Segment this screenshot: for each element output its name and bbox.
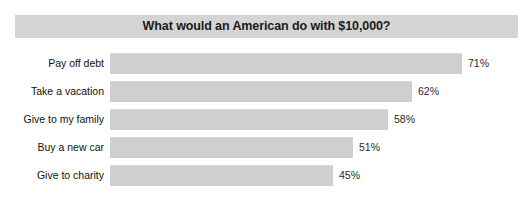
bar-row: Pay off debt 71% xyxy=(0,53,531,74)
category-label: Give to my family xyxy=(23,109,104,130)
category-label: Buy a new car xyxy=(37,137,104,158)
bar-fill xyxy=(110,137,353,158)
bar-fill xyxy=(110,53,462,74)
bar-fill xyxy=(110,109,388,130)
bar-track xyxy=(110,137,353,158)
bar-track xyxy=(110,165,333,186)
value-label: 71% xyxy=(468,53,489,74)
chart-title: What would an American do with $10,000? xyxy=(143,20,391,33)
bar-track xyxy=(110,109,388,130)
bar-row: Give to my family 58% xyxy=(0,109,531,130)
value-label: 45% xyxy=(339,165,360,186)
value-label: 58% xyxy=(394,109,415,130)
plot-area: Pay off debt 71% Take a vacation 62% Giv… xyxy=(0,46,531,203)
bar-row: Take a vacation 62% xyxy=(0,81,531,102)
chart-title-band: What would an American do with $10,000? xyxy=(15,15,518,38)
bar-track xyxy=(110,53,462,74)
value-label: 51% xyxy=(359,137,380,158)
bar-row: Buy a new car 51% xyxy=(0,137,531,158)
bar-fill xyxy=(110,165,333,186)
bar-row: Give to charity 45% xyxy=(0,165,531,186)
category-label: Give to charity xyxy=(37,165,104,186)
bar-chart: What would an American do with $10,000? … xyxy=(0,0,531,203)
bar-fill xyxy=(110,81,412,102)
category-label: Take a vacation xyxy=(31,81,104,102)
category-label: Pay off debt xyxy=(48,53,104,74)
bar-track xyxy=(110,81,412,102)
value-label: 62% xyxy=(418,81,439,102)
